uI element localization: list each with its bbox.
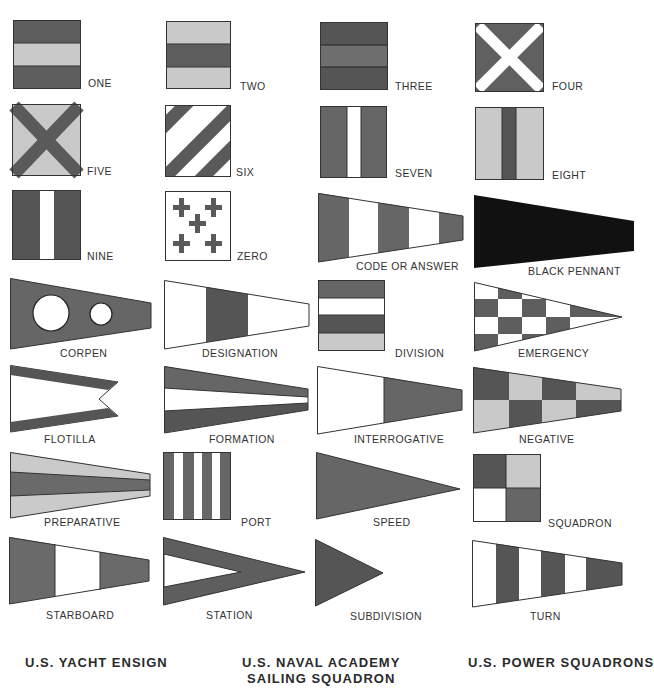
label-emergency: EMERGENCY bbox=[518, 347, 589, 359]
flag-emergency-graphic bbox=[474, 282, 624, 352]
heading-naval-line2: SAILING SQUADRON bbox=[242, 671, 400, 687]
label-one: ONE bbox=[88, 77, 112, 89]
flag-seven-graphic bbox=[320, 106, 387, 178]
flag-corpen-graphic bbox=[10, 278, 152, 350]
label-seven: SEVEN bbox=[395, 167, 433, 179]
flag-four-graphic bbox=[475, 23, 544, 92]
flag-division bbox=[318, 280, 385, 351]
heading-us-power-squadrons: U.S. POWER SQUADRONS bbox=[468, 655, 654, 671]
flag-station bbox=[163, 537, 307, 606]
flag-black-pennant bbox=[474, 195, 635, 269]
label-speed: SPEED bbox=[373, 516, 411, 528]
flag-starboard bbox=[9, 537, 151, 605]
flag-speed-graphic bbox=[316, 452, 462, 520]
label-interrogative: INTERROGATIVE bbox=[354, 433, 444, 445]
flag-code-or-answer bbox=[318, 193, 464, 263]
flag-one bbox=[13, 20, 81, 89]
flag-speed bbox=[316, 452, 462, 520]
flag-designation-graphic bbox=[164, 280, 310, 350]
label-two: TWO bbox=[240, 80, 266, 92]
flag-zero-graphic bbox=[165, 191, 231, 261]
flag-eight-graphic bbox=[475, 107, 544, 180]
label-four: FOUR bbox=[552, 80, 583, 92]
label-corpen: CORPEN bbox=[60, 347, 107, 359]
flag-flotilla-graphic bbox=[10, 365, 120, 433]
flag-squadron bbox=[473, 454, 541, 522]
flag-five bbox=[12, 104, 81, 176]
flag-nine bbox=[12, 190, 81, 260]
flag-negative bbox=[473, 367, 623, 434]
flag-turn bbox=[472, 540, 624, 608]
flag-squadron-graphic bbox=[473, 454, 541, 522]
heading-naval-academy: U.S. NAVAL ACADEMY SAILING SQUADRON bbox=[242, 655, 400, 687]
flag-corpen bbox=[10, 278, 152, 350]
flag-station-graphic bbox=[163, 537, 307, 606]
label-five: FIVE bbox=[87, 165, 112, 177]
flag-six bbox=[165, 105, 231, 177]
label-three: THREE bbox=[395, 80, 433, 92]
label-turn: TURN bbox=[530, 610, 561, 622]
label-preparative: PREPARATIVE bbox=[44, 516, 120, 528]
label-zero: ZERO bbox=[237, 250, 268, 262]
flag-port bbox=[163, 452, 231, 520]
flag-nine-graphic bbox=[12, 190, 81, 260]
label-squadron: SQUADRON bbox=[548, 517, 612, 529]
label-division: DIVISION bbox=[395, 347, 444, 359]
flag-two-graphic bbox=[166, 21, 231, 89]
flag-six-graphic bbox=[165, 105, 231, 177]
label-designation: DESIGNATION bbox=[202, 347, 278, 359]
flag-interrogative bbox=[317, 366, 464, 435]
flag-designation bbox=[164, 280, 310, 350]
flag-negative-graphic bbox=[473, 367, 623, 434]
label-station: STATION bbox=[206, 609, 253, 621]
flag-eight bbox=[475, 107, 544, 180]
heading-us-yacht-ensign: U.S. YACHT ENSIGN bbox=[25, 655, 168, 671]
flag-port-graphic bbox=[163, 452, 231, 520]
label-code-or-answer: CODE OR ANSWER bbox=[356, 260, 459, 272]
flag-preparative bbox=[10, 452, 152, 519]
label-negative: NEGATIVE bbox=[519, 433, 575, 445]
flag-division-graphic bbox=[318, 280, 385, 351]
flag-emergency bbox=[474, 282, 624, 352]
flag-three bbox=[320, 22, 388, 90]
flag-three-graphic bbox=[320, 22, 388, 90]
flag-four bbox=[475, 23, 544, 92]
label-starboard: STARBOARD bbox=[46, 609, 114, 621]
flag-zero bbox=[165, 191, 231, 261]
flag-one-graphic bbox=[13, 20, 81, 89]
label-six: SIX bbox=[236, 166, 254, 178]
flag-formation-graphic bbox=[164, 366, 310, 434]
flag-preparative-graphic bbox=[10, 452, 152, 519]
label-black-pennant: BLACK PENNANT bbox=[528, 265, 621, 277]
label-subdivision: SUBDIVISION bbox=[350, 610, 422, 622]
flag-turn-graphic bbox=[472, 540, 624, 608]
label-nine: NINE bbox=[87, 250, 114, 262]
label-eight: EIGHT bbox=[552, 169, 586, 181]
flag-black-pennant-graphic bbox=[474, 195, 635, 269]
flag-two bbox=[166, 21, 231, 89]
flag-flotilla bbox=[10, 365, 120, 433]
label-flotilla: FLOTILLA bbox=[44, 433, 96, 445]
flag-subdivision-graphic bbox=[315, 539, 385, 607]
label-port: PORT bbox=[241, 516, 272, 528]
heading-naval-line1: U.S. NAVAL ACADEMY bbox=[242, 655, 400, 671]
flag-five-graphic bbox=[12, 104, 81, 176]
flag-starboard-graphic bbox=[9, 537, 151, 605]
flag-subdivision bbox=[315, 539, 385, 607]
flag-code-or-answer-graphic bbox=[318, 193, 464, 263]
flag-interrogative-graphic bbox=[317, 366, 464, 435]
label-formation: FORMATION bbox=[209, 433, 275, 445]
flag-seven bbox=[320, 106, 387, 178]
flag-formation bbox=[164, 366, 310, 434]
